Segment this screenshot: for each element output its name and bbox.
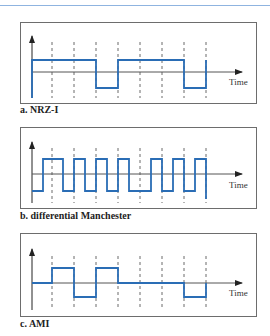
chart-differential-manchester: Time bbox=[32, 142, 248, 203]
bit-boundary-lines bbox=[52, 42, 206, 98]
chart-ami: Time bbox=[32, 249, 248, 310]
time-axis-label: Time bbox=[229, 288, 248, 298]
nrz-i-waveform bbox=[32, 60, 206, 98]
signal-diagrams: Time Time bbox=[0, 0, 270, 336]
time-axis-label: Time bbox=[229, 180, 248, 190]
chart-nrz-i: Time bbox=[32, 36, 248, 98]
differential-manchester-waveform bbox=[32, 159, 206, 199]
time-axis-label: Time bbox=[229, 77, 248, 87]
